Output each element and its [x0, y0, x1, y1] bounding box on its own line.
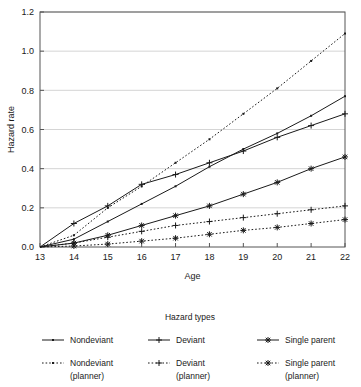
data-point-marker	[310, 60, 312, 62]
data-point-marker	[105, 241, 111, 247]
x-axis-ticks: 13141516171819202122	[35, 243, 350, 262]
data-point-marker	[156, 360, 162, 366]
data-point-marker	[141, 203, 143, 205]
gridlines	[40, 12, 345, 208]
data-point-marker	[276, 132, 278, 134]
data-point-marker	[276, 87, 278, 89]
data-point-marker	[139, 228, 145, 234]
y-tick-label: 1.0	[21, 46, 34, 56]
data-point-marker	[206, 219, 212, 225]
legend-label: Single parent	[285, 335, 336, 345]
x-tick-label: 22	[340, 252, 350, 262]
y-tick-label: 0.8	[21, 86, 34, 96]
data-point-marker	[240, 227, 246, 233]
data-point-marker	[240, 191, 246, 197]
data-point-marker	[308, 123, 314, 129]
data-point-marker	[208, 138, 210, 140]
x-tick-label: 17	[171, 252, 181, 262]
legend-label: Nondeviant	[70, 358, 114, 368]
y-tick-label: 0.0	[21, 242, 34, 252]
data-point-marker	[173, 235, 179, 241]
legend-label: Deviant	[176, 358, 205, 368]
data-series-group	[40, 33, 348, 249]
series-line	[40, 34, 345, 247]
legend-label: Deviant	[176, 335, 205, 345]
data-point-marker	[242, 113, 244, 115]
data-point-marker	[240, 148, 246, 154]
data-point-marker	[274, 179, 280, 185]
series-nondeviant	[40, 95, 346, 247]
data-point-marker	[139, 238, 145, 244]
legend-item-single-parent[interactable]: Single parent	[257, 335, 336, 345]
y-tick-label: 0.2	[21, 203, 34, 213]
legend-label: Nondeviant	[70, 335, 114, 345]
legend-label: Single parent	[285, 358, 336, 368]
x-tick-label: 18	[204, 252, 214, 262]
data-point-marker	[175, 185, 177, 187]
data-point-marker	[73, 234, 75, 236]
x-tick-label: 19	[238, 252, 248, 262]
data-point-marker	[71, 243, 77, 249]
data-point-marker	[206, 231, 212, 237]
x-tick-label: 13	[35, 252, 45, 262]
data-point-marker	[208, 166, 210, 168]
data-point-marker	[107, 221, 109, 223]
data-point-marker	[71, 221, 77, 227]
data-point-marker	[206, 203, 212, 209]
data-point-marker	[107, 207, 109, 209]
data-point-marker	[308, 221, 314, 227]
legend-item-deviant[interactable]: Deviant	[148, 335, 205, 345]
data-point-marker	[344, 95, 346, 97]
data-point-marker	[342, 217, 348, 223]
x-tick-label: 15	[103, 252, 113, 262]
data-point-marker	[342, 154, 348, 160]
legend-item-nondeviant-planner[interactable]: Nondeviant(planner)	[42, 358, 114, 381]
data-point-marker	[156, 337, 162, 343]
legend-item-single-parent-planner[interactable]: Single parent(planner)	[257, 358, 336, 381]
data-point-marker	[73, 238, 75, 240]
data-point-marker	[141, 185, 143, 187]
series-nondeviant-planner	[40, 33, 346, 247]
data-point-marker	[139, 222, 145, 228]
data-point-marker	[342, 111, 348, 117]
x-axis-title: Age	[184, 271, 200, 281]
hazard-rate-figure: 0.00.20.40.60.81.01.2 131415161718192021…	[0, 0, 361, 387]
legend-label-secondary: (planner)	[176, 371, 210, 381]
data-point-marker	[274, 211, 280, 217]
data-point-marker	[175, 162, 177, 164]
data-point-marker	[206, 160, 212, 166]
series-line	[40, 114, 345, 247]
y-tick-label: 1.2	[21, 7, 34, 17]
data-point-marker	[52, 362, 54, 364]
y-tick-label: 0.4	[21, 164, 34, 174]
data-point-marker	[344, 33, 346, 35]
data-point-marker	[274, 224, 280, 230]
legend: NondeviantDeviantSingle parentNondeviant…	[42, 335, 336, 381]
y-axis-ticks: 0.00.20.40.60.81.01.2	[21, 7, 44, 252]
data-point-marker	[265, 337, 271, 343]
x-tick-label: 20	[272, 252, 282, 262]
data-point-marker	[265, 360, 271, 366]
data-point-marker	[173, 222, 179, 228]
legend-label-secondary: (planner)	[285, 371, 319, 381]
hazard-rate-line-chart: 0.00.20.40.60.81.01.2 131415161718192021…	[0, 0, 361, 387]
legend-title: Hazard types	[165, 312, 215, 322]
x-tick-label: 14	[69, 252, 79, 262]
data-point-marker	[310, 115, 312, 117]
data-point-marker	[52, 339, 54, 341]
series-deviant	[40, 111, 348, 247]
data-point-marker	[173, 172, 179, 178]
y-tick-label: 0.6	[21, 125, 34, 135]
data-point-marker	[173, 213, 179, 219]
legend-label-secondary: (planner)	[70, 371, 104, 381]
x-tick-label: 21	[306, 252, 316, 262]
legend-item-nondeviant[interactable]: Nondeviant	[42, 335, 114, 345]
data-point-marker	[240, 215, 246, 221]
data-point-marker	[308, 166, 314, 172]
x-tick-label: 16	[137, 252, 147, 262]
y-axis-title: Hazard rate	[6, 106, 16, 153]
data-point-marker	[274, 134, 280, 140]
legend-item-deviant-planner[interactable]: Deviant(planner)	[148, 358, 210, 381]
